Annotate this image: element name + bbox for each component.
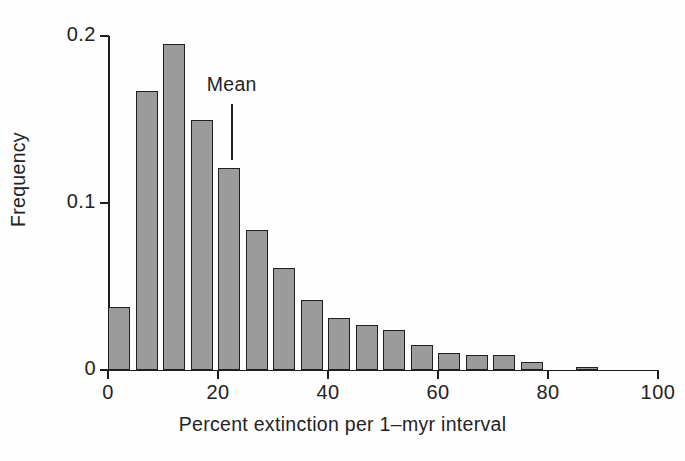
figure-container: 00.10.2 020406080100 Mean Percent extinc…: [0, 0, 685, 461]
histogram-bar: [438, 353, 460, 370]
histogram-bar: [136, 91, 158, 370]
histogram-bar: [466, 355, 488, 370]
x-axis-tick: [437, 370, 439, 379]
histogram-bar: [521, 362, 543, 370]
x-axis-tick-label: 20: [206, 381, 229, 404]
y-axis-tick: [100, 35, 109, 37]
x-axis-tick: [327, 370, 329, 379]
y-axis-tick: [100, 202, 109, 204]
histogram-bar: [246, 230, 268, 370]
histogram-bar: [163, 44, 185, 370]
x-axis-tick-label: 40: [316, 381, 339, 404]
x-axis-tick: [547, 370, 549, 379]
histogram-bar: [108, 307, 130, 370]
plot-area: 00.10.2 020406080100 Mean Percent extinc…: [0, 0, 685, 461]
x-axis-title: Percent extinction per 1–myr interval: [0, 413, 685, 436]
mean-annotation-line: [231, 104, 233, 159]
y-axis-title: Frequency: [7, 100, 30, 260]
x-axis-tick-label: 100: [641, 381, 676, 404]
x-axis-tick-label: 60: [426, 381, 449, 404]
histogram-bar: [218, 168, 240, 370]
histogram-bar: [191, 120, 213, 371]
x-axis-tick-label: 0: [102, 381, 114, 404]
histogram-bar: [493, 355, 515, 370]
mean-annotation-label: Mean: [207, 73, 257, 96]
y-axis-tick-label: 0: [40, 357, 96, 380]
x-axis-tick: [107, 370, 109, 379]
histogram-bar: [576, 367, 598, 370]
histogram-bar: [328, 318, 350, 370]
histogram-bar: [383, 330, 405, 370]
histogram-bar: [411, 345, 433, 370]
histogram-bar: [273, 268, 295, 370]
histogram-bar: [301, 300, 323, 370]
histogram-bar: [356, 325, 378, 370]
y-axis-tick-label: 0.1: [40, 190, 96, 213]
x-axis-tick-label: 80: [536, 381, 559, 404]
x-axis-tick: [657, 370, 659, 379]
y-axis-tick-label: 0.2: [40, 23, 96, 46]
x-axis-tick: [217, 370, 219, 379]
